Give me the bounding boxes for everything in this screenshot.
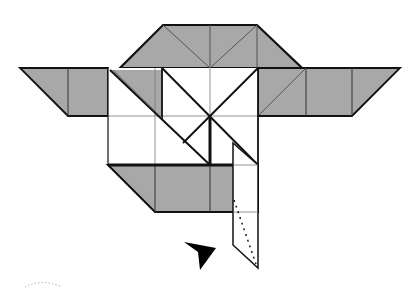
right-wing [258, 68, 400, 116]
push-arrow-icon [184, 242, 216, 270]
strip-flap [233, 143, 258, 268]
curved-arrow-icon [25, 283, 62, 288]
top-flap [120, 25, 302, 68]
left-wing [20, 68, 108, 116]
origami-diagram [0, 0, 417, 289]
